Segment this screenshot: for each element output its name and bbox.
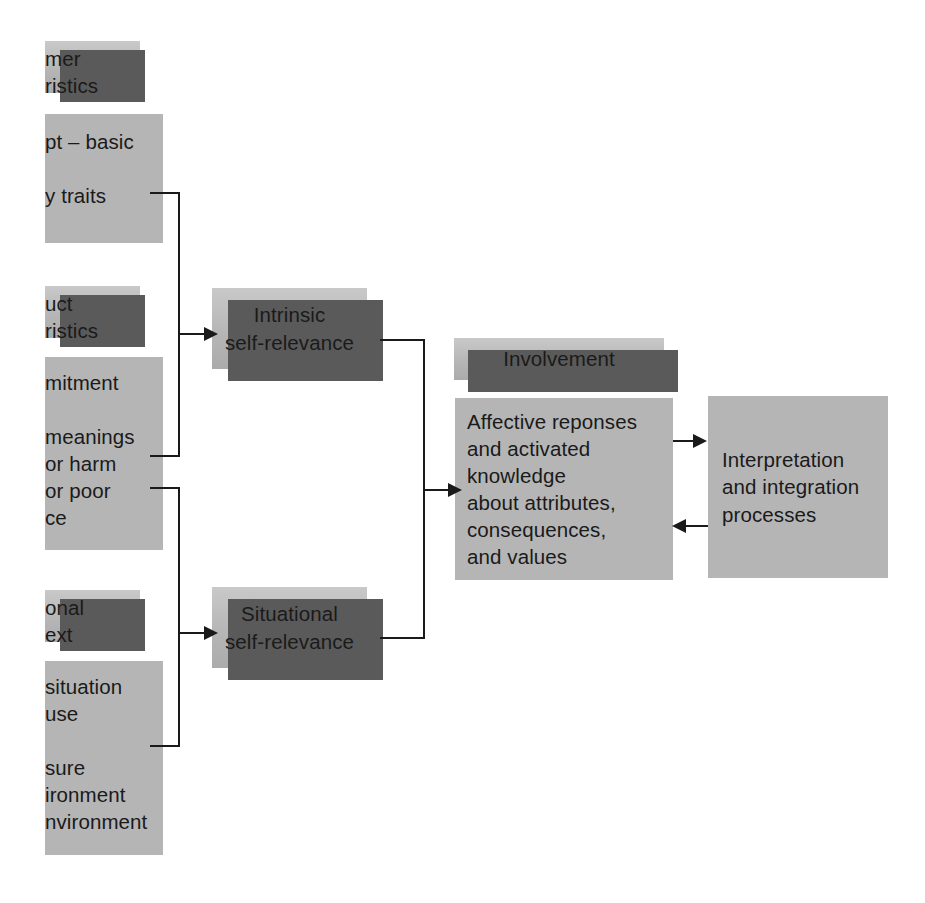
arrowhead-intrinsic <box>204 327 218 341</box>
consumer-characteristics-body-box: pt – basic y traits <box>45 114 163 243</box>
product-characteristics-header-label: uct ristics <box>45 290 140 338</box>
situational-context-body-box: situation use sure ironment nvironment <box>45 661 163 855</box>
affective-responses-box: Affective reponses and activated knowled… <box>455 398 673 580</box>
arrowhead-interpretation <box>693 434 707 448</box>
connector-consumer-horizontal <box>150 192 180 194</box>
product-characteristics-body-label: mitment meanings or harm or poor ce <box>45 369 163 531</box>
flow-diagram: mer ristics pt – basic y traits uct rist… <box>0 0 925 903</box>
consumer-characteristics-header-box: mer ristics <box>45 41 140 93</box>
connector-interpretation-to-affective <box>686 525 708 527</box>
consumer-characteristics-body-label: pt – basic y traits <box>45 128 163 209</box>
consumer-characteristics-header-label: mer ristics <box>45 45 140 93</box>
connector-product-to-intrinsic-horizontal <box>150 455 180 457</box>
connector-situational-context-horizontal <box>150 745 180 747</box>
interpretation-processes-box: Interpretation and integration processes <box>708 396 888 578</box>
situational-self-relevance-label: Situational self-relevance <box>225 600 354 654</box>
connector-intrinsic-out-horizontal <box>380 339 425 341</box>
connector-affective-to-interpretation <box>673 440 695 442</box>
situational-context-header-box: onal ext <box>45 590 140 642</box>
connector-situational-out-horizontal <box>380 637 425 639</box>
product-characteristics-body-box: mitment meanings or harm or poor ce <box>45 357 163 550</box>
product-characteristics-header-box: uct ristics <box>45 286 140 338</box>
involvement-header-label: Involvement <box>503 345 615 372</box>
arrowhead-situational <box>204 626 218 640</box>
arrowhead-back-to-affective <box>672 519 686 533</box>
connector-situational-bracket-vertical <box>178 487 180 747</box>
interpretation-processes-label: Interpretation and integration processes <box>722 446 859 527</box>
arrowhead-affective <box>448 483 462 497</box>
affective-responses-label: Affective reponses and activated knowled… <box>467 408 673 570</box>
connector-product-to-situational-horizontal <box>150 487 180 489</box>
situational-context-body-label: situation use sure ironment nvironment <box>45 673 163 835</box>
intrinsic-self-relevance-label: Intrinsic self-relevance <box>225 301 354 355</box>
situational-context-header-label: onal ext <box>45 594 140 642</box>
connector-intrinsic-bracket-vertical <box>178 192 180 457</box>
